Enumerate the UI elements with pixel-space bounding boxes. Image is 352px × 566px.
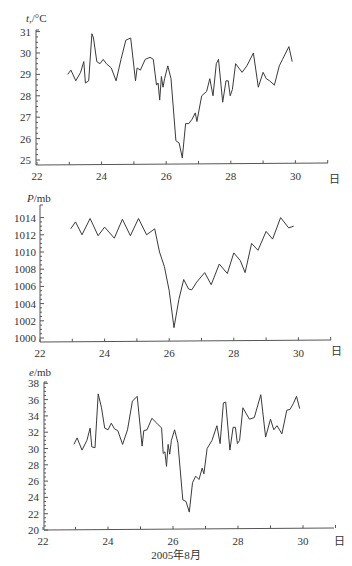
x-tick-label: 30 — [293, 347, 305, 359]
pressure-panel: P/mb 10001002100410061008101010121014222… — [14, 192, 342, 359]
temperature-line — [68, 34, 293, 158]
y-tick-label: 1008 — [14, 263, 37, 275]
y-tick-label: 24 — [28, 491, 40, 503]
y-tick-label: 29 — [20, 68, 32, 80]
x-tick-label: 30 — [298, 535, 310, 547]
x-tick-label: 24 — [96, 170, 108, 182]
y-tick-label: 34 — [28, 410, 40, 422]
x-tick-label: 22 — [38, 535, 49, 547]
temperature-axes: 252627282930312224262830 — [20, 26, 328, 182]
vapor-pressure-x-unit: 日 — [334, 535, 345, 547]
y-tick-label: 30 — [20, 47, 32, 59]
vapor-pressure-axes: 202224262830323436382224262830 — [28, 377, 336, 547]
x-tick-label: 28 — [225, 170, 237, 182]
temperature-panel: t,/°C 252627282930312224262830 日 — [20, 12, 340, 185]
y-tick-label: 36 — [28, 394, 40, 406]
x-tick-label: 26 — [168, 535, 180, 547]
pressure-x-unit: 日 — [331, 345, 342, 357]
x-tick-label: 24 — [99, 347, 111, 359]
y-tick-label: 1000 — [14, 332, 37, 344]
y-tick-label: 1014 — [14, 212, 37, 224]
x-tick-label: 24 — [103, 535, 115, 547]
x-tick-label: 26 — [164, 347, 176, 359]
pressure-axis-title: P/mb — [26, 192, 51, 204]
y-tick-label: 28 — [20, 90, 32, 102]
y-tick-label: 26 — [20, 133, 32, 145]
y-tick-label: 31 — [20, 26, 31, 38]
y-tick-label: 1004 — [14, 298, 37, 310]
y-tick-label: 32 — [28, 426, 39, 438]
y-tick-label: 28 — [28, 459, 40, 471]
x-tick-label: 28 — [233, 535, 245, 547]
x-axis-line — [36, 163, 328, 165]
x-axis-line — [40, 340, 331, 342]
x-tick-label: 22 — [35, 347, 46, 359]
pressure-line — [71, 218, 294, 328]
x-axis-title: 2005年8月 — [151, 548, 201, 561]
y-tick-label: 1002 — [14, 315, 36, 327]
y-tick-label: 1006 — [14, 280, 37, 292]
y-tick-label: 22 — [28, 508, 39, 520]
y-tick-label: 1010 — [14, 246, 37, 258]
x-axis-line — [44, 528, 334, 530]
y-tick-label: 27 — [20, 111, 32, 123]
temperature-x-unit: 日 — [329, 173, 340, 185]
x-tick-label: 28 — [228, 347, 240, 359]
vapor-pressure-line — [74, 394, 300, 512]
x-tick-label: 22 — [32, 170, 43, 182]
y-tick-label: 30 — [28, 443, 40, 455]
vapor-pressure-axis-title: e/mb — [29, 366, 52, 378]
y-tick-label: 25 — [20, 154, 32, 166]
temperature-axis-title: t,/°C — [26, 12, 47, 24]
chart-figure: t,/°C 252627282930312224262830 日 P/mb 10… — [0, 0, 352, 566]
y-tick-label: 26 — [28, 475, 40, 487]
pressure-axes: 1000100210041006100810101012101422242628… — [14, 205, 331, 359]
y-tick-label: 38 — [28, 377, 40, 389]
x-tick-label: 26 — [161, 170, 173, 182]
x-tick-label: 30 — [290, 170, 302, 182]
vapor-pressure-panel: e/mb 202224262830323436382224262830 日 20… — [28, 366, 345, 561]
y-tick-label: 1012 — [14, 229, 36, 241]
